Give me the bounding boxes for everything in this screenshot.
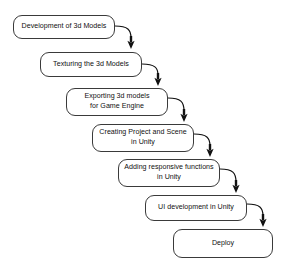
connector-curve bbox=[115, 26, 131, 38]
connector-curve bbox=[247, 204, 263, 216]
connector-curve bbox=[220, 169, 236, 182]
flowchart-node-label: Texturing the 3d Models bbox=[53, 60, 129, 70]
flowchart-node-label: Adding responsive functions in Unity bbox=[124, 163, 213, 182]
flowchart-canvas: Development of 3d ModelsTexturing the 3d… bbox=[0, 0, 290, 274]
connector-curve bbox=[168, 98, 184, 111]
connector-curve bbox=[142, 64, 158, 75]
flowchart-node-label: UI development in Unity bbox=[158, 203, 234, 213]
flowchart-node-creating-project-and-scene-in-unity[interactable]: Creating Project and Scene in Unity bbox=[92, 124, 194, 152]
flowchart-node-label: Development of 3d Models bbox=[22, 22, 107, 32]
flowchart-node-deploy[interactable]: Deploy bbox=[173, 229, 273, 258]
flowchart-node-label: Exporting 3d models for Game Engine bbox=[84, 92, 149, 111]
flowchart-node-texturing-the-3d-models[interactable]: Texturing the 3d Models bbox=[40, 52, 142, 77]
flowchart-node-exporting-3d-models-for-game-engine[interactable]: Exporting 3d models for Game Engine bbox=[66, 88, 168, 116]
flowchart-node-adding-responsive-functions-in-unity[interactable]: Adding responsive functions in Unity bbox=[118, 159, 220, 187]
flowchart-node-label: Creating Project and Scene in Unity bbox=[99, 128, 186, 147]
connector-curve bbox=[194, 134, 210, 146]
flowchart-node-development-of-3d-models[interactable]: Development of 3d Models bbox=[13, 15, 115, 39]
flowchart-node-label: Deploy bbox=[212, 239, 234, 249]
flowchart-node-ui-development-in-unity[interactable]: UI development in Unity bbox=[145, 195, 247, 221]
